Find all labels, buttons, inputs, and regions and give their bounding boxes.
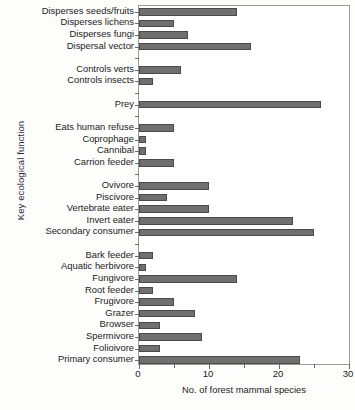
x-axis-tick-label: 20 xyxy=(263,368,293,379)
category-label: Piscivore xyxy=(8,192,134,202)
y-axis-tick xyxy=(135,116,139,117)
category-label: Grazer xyxy=(8,308,134,318)
category-label: Carrion feeder xyxy=(8,157,134,167)
x-axis-tick xyxy=(314,364,315,368)
x-axis-tick xyxy=(244,364,245,368)
bar xyxy=(139,31,188,39)
category-label: Disperses fungi xyxy=(8,29,134,39)
bar xyxy=(139,66,181,74)
bar xyxy=(139,78,153,86)
category-label: Controls insects xyxy=(8,75,134,85)
y-axis-tick xyxy=(135,58,139,59)
bar xyxy=(139,298,174,306)
category-label: Primary consumer xyxy=(8,354,134,364)
category-label: Fungivore xyxy=(8,273,134,283)
category-label: Frugivore xyxy=(8,296,134,306)
bar xyxy=(139,345,160,353)
category-label: Folioivore xyxy=(8,343,134,353)
category-label: Controls verts xyxy=(8,64,134,74)
y-axis-tick xyxy=(135,93,139,94)
category-label: Prey xyxy=(8,99,134,109)
x-axis-tick-label: 0 xyxy=(123,368,153,379)
bar xyxy=(139,252,153,260)
category-label: Aquatic herbivore xyxy=(8,261,134,271)
category-label: Coprophage xyxy=(8,134,134,144)
category-label: Spermivore xyxy=(8,331,134,341)
x-axis-tick-label: 10 xyxy=(193,368,223,379)
bar-chart-figure: Key ecological function Disperses seeds/… xyxy=(0,0,355,410)
bar xyxy=(139,124,174,132)
category-label: Bark feeder xyxy=(8,250,134,260)
bar xyxy=(139,101,321,109)
x-axis-title: No. of forest mammal species xyxy=(138,384,350,395)
bar xyxy=(139,43,251,51)
category-label: Vertebrate eater xyxy=(8,203,134,213)
bar xyxy=(139,8,237,16)
bar xyxy=(139,205,209,213)
category-label: Cannibal xyxy=(8,145,134,155)
category-label: Browser xyxy=(8,319,134,329)
category-label: Secondary consumer xyxy=(8,226,134,236)
plot-area xyxy=(138,5,350,365)
category-label: Disperses lichens xyxy=(8,17,134,27)
y-axis-tick xyxy=(135,244,139,245)
bar xyxy=(139,264,146,272)
bar xyxy=(139,194,167,202)
bar xyxy=(139,159,174,167)
bar xyxy=(139,20,174,28)
bar xyxy=(139,356,300,364)
category-label: Ovivore xyxy=(8,180,134,190)
y-axis-category-labels: Disperses seeds/fruitsDisperses lichensD… xyxy=(8,5,134,365)
bar xyxy=(139,136,146,144)
bar xyxy=(139,217,293,225)
bar xyxy=(139,229,314,237)
y-axis-tick xyxy=(135,174,139,175)
category-label: Invert eater xyxy=(8,215,134,225)
bar xyxy=(139,333,202,341)
x-axis-tick xyxy=(174,364,175,368)
bar xyxy=(139,182,209,190)
category-label: Root feeder xyxy=(8,285,134,295)
bar xyxy=(139,287,153,295)
category-label: Eats human refuse xyxy=(8,122,134,132)
category-label: Disperses seeds/fruits xyxy=(8,6,134,16)
bar xyxy=(139,310,195,318)
bar xyxy=(139,322,160,330)
category-label: Dispersal vector xyxy=(8,41,134,51)
bar xyxy=(139,147,146,155)
x-axis-tick-label: 30 xyxy=(333,368,355,379)
bar xyxy=(139,275,237,283)
